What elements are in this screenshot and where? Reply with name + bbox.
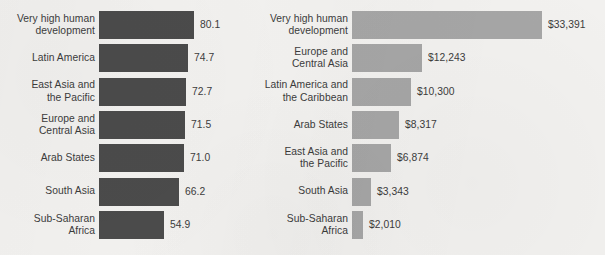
bar-row: South Asia$3,343 <box>250 178 605 206</box>
bar <box>352 211 363 239</box>
chart-life-expectancy: Very high human development80.1Latin Ame… <box>0 0 250 255</box>
bar <box>99 44 188 72</box>
bar-track: 54.9 <box>99 211 250 239</box>
bar <box>352 111 399 139</box>
bar-value-label: 66.2 <box>185 186 205 198</box>
category-label: South Asia <box>0 185 99 197</box>
bar-track: $33,391 <box>352 11 605 39</box>
bar <box>99 144 184 172</box>
category-label: Sub-Saharan Africa <box>0 213 99 237</box>
bar-value-label: 74.7 <box>194 52 214 64</box>
bar-value-label: $2,010 <box>369 219 401 231</box>
category-label: Arab States <box>250 119 352 131</box>
bar <box>352 144 391 172</box>
bar-value-label: 80.1 <box>200 19 220 31</box>
bar-row: Arab States71.0 <box>0 144 250 172</box>
bar-row: Sub-Saharan Africa$2,010 <box>250 211 605 239</box>
bar-value-label: 54.9 <box>170 219 190 231</box>
chart-gross-national-income: Very high human development$33,391Europe… <box>250 0 605 255</box>
category-label: Arab States <box>0 152 99 164</box>
category-label: East Asia and the Pacific <box>0 79 99 103</box>
bar-track: 71.5 <box>99 111 250 139</box>
bar-row: Arab States$8,317 <box>250 111 605 139</box>
category-label: Latin America <box>0 52 99 64</box>
bar-row: Latin America and the Caribbean$10,300 <box>250 78 605 106</box>
bar-track: $8,317 <box>352 111 605 139</box>
bar-track: 66.2 <box>99 178 250 206</box>
bar <box>99 11 194 39</box>
category-label: Europe and Central Asia <box>0 113 99 137</box>
category-label: Latin America and the Caribbean <box>250 79 352 103</box>
bar-value-label: 71.0 <box>190 152 210 164</box>
category-label: Europe and Central Asia <box>250 46 352 70</box>
bar <box>352 178 371 206</box>
bar-row: Very high human development80.1 <box>0 11 250 39</box>
bar-value-label: $3,343 <box>377 186 409 198</box>
bar <box>352 78 411 106</box>
bar-track: $6,874 <box>352 144 605 172</box>
bar <box>99 211 164 239</box>
bar-row: Europe and Central Asia71.5 <box>0 111 250 139</box>
bar-track: $12,243 <box>352 44 605 72</box>
bar-track: 80.1 <box>99 11 250 39</box>
category-label: Very high human development <box>0 13 99 37</box>
bar-track: 72.7 <box>99 78 250 106</box>
bar <box>352 11 542 39</box>
category-label: South Asia <box>250 185 352 197</box>
bar-track: 71.0 <box>99 144 250 172</box>
bar-track: $10,300 <box>352 78 605 106</box>
bar <box>352 44 422 72</box>
bar <box>99 178 179 206</box>
bar-row: East Asia and the Pacific72.7 <box>0 78 250 106</box>
bar-track: 74.7 <box>99 44 250 72</box>
bar <box>99 78 186 106</box>
category-label: East Asia and the Pacific <box>250 146 352 170</box>
bar-value-label: $10,300 <box>417 86 455 98</box>
bar <box>99 111 185 139</box>
bar-row: Sub-Saharan Africa54.9 <box>0 211 250 239</box>
bar-row: Very high human development$33,391 <box>250 11 605 39</box>
bar-row: Europe and Central Asia$12,243 <box>250 44 605 72</box>
category-label: Sub-Saharan Africa <box>250 213 352 237</box>
bar-track: $2,010 <box>352 211 605 239</box>
bar-value-label: 72.7 <box>192 86 212 98</box>
bar-value-label: $12,243 <box>428 52 466 64</box>
bar-value-label: 71.5 <box>191 119 211 131</box>
bar-row: East Asia and the Pacific$6,874 <box>250 144 605 172</box>
bar-row: Latin America74.7 <box>0 44 250 72</box>
bar-value-label: $33,391 <box>548 19 586 31</box>
bar-value-label: $6,874 <box>397 152 429 164</box>
category-label: Very high human development <box>250 13 352 37</box>
bar-row: South Asia66.2 <box>0 178 250 206</box>
bar-track: $3,343 <box>352 178 605 206</box>
bar-value-label: $8,317 <box>405 119 437 131</box>
